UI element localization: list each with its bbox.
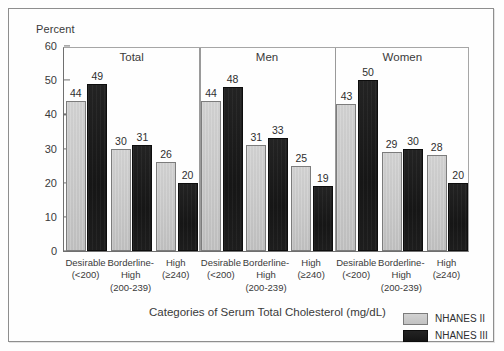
bar-value-label: 50 <box>362 66 374 78</box>
y-axis-tick: 50 <box>45 74 64 86</box>
bar <box>178 183 198 251</box>
bar-value-label: 44 <box>205 87 217 99</box>
legend-swatch <box>403 313 428 325</box>
x-axis-category-label: Desirable(<200) <box>65 257 105 282</box>
bar-value-label: 26 <box>160 148 172 160</box>
bar <box>268 138 288 251</box>
bar <box>358 80 378 251</box>
x-axis-category-line: Borderline- <box>107 257 153 269</box>
bar <box>448 183 468 251</box>
bar-value-label: 20 <box>182 169 194 181</box>
bar-value-label: 33 <box>272 124 284 136</box>
chart-frame: Percent 0102030405060Total444930312620Me… <box>8 8 494 342</box>
bar <box>427 155 447 251</box>
x-axis-category-label: Desirable(<200) <box>201 257 241 282</box>
x-axis-category-line: High <box>162 257 189 269</box>
bar-value-label: 29 <box>386 138 398 150</box>
bar-value-label: 31 <box>137 131 149 143</box>
x-axis-category-label: Desirable(<200) <box>336 257 376 282</box>
bar <box>87 84 107 251</box>
figure-canvas: Percent 0102030405060Total444930312620Me… <box>0 0 504 351</box>
x-axis-category-line: (≥240) <box>433 269 460 281</box>
bar-value-label: 48 <box>227 73 239 85</box>
x-axis-category-line: High <box>297 257 324 269</box>
legend-label: NHANES II <box>435 313 485 324</box>
x-axis-category-line: (200-239) <box>243 282 289 294</box>
x-axis-title: Categories of Serum Total Cholesterol (m… <box>149 306 386 318</box>
x-axis-category-label: High(≥240) <box>162 257 189 282</box>
bar-value-label: 31 <box>250 131 262 143</box>
y-axis-tick: 10 <box>45 211 64 223</box>
x-axis-category-label: High(≥240) <box>297 257 324 282</box>
x-axis-category-line: Borderline- <box>243 257 289 269</box>
x-axis-category-line: (200-239) <box>107 282 153 294</box>
bar-value-label: 30 <box>115 135 127 147</box>
bar-value-label: 43 <box>341 90 353 102</box>
y-axis-tick: 60 <box>45 40 64 52</box>
y-axis-title: Percent <box>36 23 75 35</box>
bar <box>201 101 221 251</box>
bar-value-label: 20 <box>452 169 464 181</box>
bar <box>223 87 243 251</box>
bar <box>382 152 402 251</box>
legend-swatch <box>403 330 428 342</box>
bar <box>291 166 311 251</box>
legend-label: NHANES III <box>435 330 488 341</box>
bar <box>66 101 86 251</box>
y-axis-tick: 20 <box>45 177 64 189</box>
x-axis-category-line: High <box>243 269 289 281</box>
bar-value-label: 25 <box>296 152 308 164</box>
x-axis-category-label: Borderline-High(200-239) <box>107 257 153 294</box>
x-axis-category-line: (<200) <box>201 269 241 281</box>
bar <box>156 162 176 251</box>
x-axis-category-line: Desirable <box>336 257 376 269</box>
y-axis-tick: 30 <box>45 143 64 155</box>
x-axis-category-line: (<200) <box>336 269 376 281</box>
bar <box>132 145 152 251</box>
chart-legend: NHANES IINHANES III <box>403 311 488 345</box>
x-axis-category-line: (<200) <box>65 269 105 281</box>
bar-value-label: 49 <box>91 70 103 82</box>
legend-item: NHANES II <box>403 311 488 326</box>
x-axis-category-line: Borderline- <box>378 257 424 269</box>
x-axis-category-line: Desirable <box>65 257 105 269</box>
bar <box>313 186 333 251</box>
bar-value-label: 30 <box>407 135 419 147</box>
panel-title-men: Men <box>256 51 278 63</box>
bar <box>111 149 131 252</box>
bar <box>403 149 423 252</box>
panel-title-total: Total <box>120 51 144 63</box>
plot-area: 0102030405060Total444930312620Men4448313… <box>63 47 469 252</box>
x-axis-category-line: High <box>378 269 424 281</box>
y-axis-tick: 0 <box>51 245 64 257</box>
bar-value-label: 44 <box>70 87 82 99</box>
y-axis-tick: 40 <box>45 108 64 120</box>
y-axis-tick-mark <box>64 45 70 46</box>
x-axis-category-line: High <box>433 257 460 269</box>
x-axis-category-label: Borderline-High(200-239) <box>243 257 289 294</box>
y-axis-tick-mark <box>64 80 70 81</box>
bar-value-label: 19 <box>317 172 329 184</box>
bar <box>246 145 266 251</box>
x-axis-category-line: Desirable <box>201 257 241 269</box>
legend-item: NHANES III <box>403 328 488 343</box>
panel-title-women: Women <box>383 51 422 63</box>
x-axis-category-line: (200-239) <box>378 282 424 294</box>
bar <box>336 104 356 251</box>
x-axis-category-line: (≥240) <box>297 269 324 281</box>
x-axis-category-label: Borderline-High(200-239) <box>378 257 424 294</box>
x-axis-category-line: High <box>107 269 153 281</box>
x-axis-category-label: High(≥240) <box>433 257 460 282</box>
bar-value-label: 28 <box>431 141 443 153</box>
x-axis-category-line: (≥240) <box>162 269 189 281</box>
